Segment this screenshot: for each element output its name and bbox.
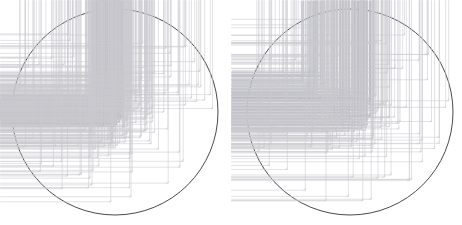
panel-right-plot: [231, 0, 462, 225]
panel-left: [0, 0, 231, 225]
panel-right-points: [231, 0, 449, 201]
panel-left-points: [0, 0, 212, 202]
scatter-figure: [0, 0, 462, 225]
panel-right: [231, 0, 462, 225]
panel-left-plot: [0, 0, 231, 225]
